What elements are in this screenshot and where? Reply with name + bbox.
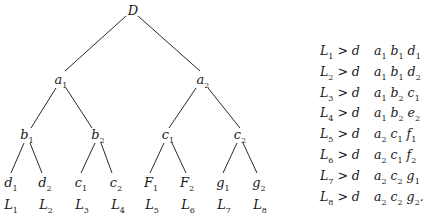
rule-index: 7	[328, 176, 333, 185]
p: g	[407, 168, 415, 183]
label-sub: 2	[48, 206, 53, 215]
rule-index: 5	[328, 135, 333, 144]
node-a1: a1	[55, 72, 68, 90]
label-sub: 5	[154, 206, 159, 215]
p: e	[408, 105, 415, 120]
rule-row: L6 > d a2 c1 f2	[320, 147, 424, 168]
p: d	[408, 64, 416, 79]
label-base: L	[217, 197, 226, 212]
s: 2	[399, 93, 404, 102]
rule-index: 4	[328, 114, 333, 123]
rule-index: 2	[328, 72, 333, 81]
s: 1	[415, 176, 420, 185]
rule-relation: > d	[337, 189, 359, 204]
label-base: L	[75, 197, 84, 212]
label-sub: 4	[120, 206, 125, 215]
node-a2: a2	[197, 72, 210, 90]
leaf-F1: F1	[144, 175, 158, 193]
node-b1: b1	[20, 127, 33, 145]
leaf-base: F	[144, 175, 153, 190]
leaf-d1: d1	[4, 175, 17, 193]
rule-index: 1	[328, 52, 333, 61]
p: c	[391, 189, 398, 204]
rule-path: a2 c1 f1	[370, 126, 416, 147]
label-base: L	[181, 197, 190, 212]
p: b	[391, 85, 399, 100]
rule-row: L4 > d a1 b2 e2	[320, 105, 424, 126]
rule-relation: > d	[337, 147, 359, 162]
s: 2	[399, 114, 404, 123]
rule-relation: > d	[337, 85, 359, 100]
leaf-d2: d2	[38, 175, 51, 193]
leaf-label-L6: L6	[181, 197, 195, 215]
rules-table: L1 > d a1 b1 d1 L2 > d a1 b1 d2 L3 > d a…	[320, 43, 424, 209]
node-sub: 1	[29, 136, 34, 145]
node-sub: 1	[62, 81, 67, 90]
p: c	[391, 147, 398, 162]
rule-path: a1 b1 d1	[370, 43, 421, 64]
label-base: L	[145, 197, 154, 212]
leaf-sub: 1	[82, 184, 87, 193]
p: g	[407, 189, 415, 204]
s: 1	[381, 72, 386, 81]
node-b2: b2	[91, 127, 104, 145]
rule-relation: > d	[337, 105, 359, 120]
root-node: D	[128, 3, 138, 18]
s: 1	[399, 72, 404, 81]
p: b	[391, 105, 399, 120]
s: 1	[381, 93, 386, 102]
rule-index: 8	[328, 197, 333, 206]
leaf-label-L8: L8	[253, 197, 267, 215]
rule-row: L8 > d a2 c2 g2.	[320, 189, 424, 210]
rule-lhs: L1 > d	[320, 43, 370, 64]
leaf-sub: 2	[117, 184, 122, 193]
p: d	[408, 43, 416, 58]
rule-path: a2 c2 g1	[370, 168, 420, 189]
s: 2	[381, 197, 386, 206]
s: 2	[398, 197, 403, 206]
p: c	[391, 168, 398, 183]
node-sub: 2	[204, 81, 209, 90]
leaf-base: F	[180, 175, 189, 190]
s: 1	[381, 114, 386, 123]
leaf-g2: g2	[252, 175, 265, 193]
leaf-c1: c1	[75, 175, 87, 193]
leaf-label-L7: L7	[217, 197, 231, 215]
rule-row: L1 > d a1 b1 d1	[320, 43, 424, 64]
s: 1	[398, 135, 403, 144]
rule-path: a2 c2 g2.	[370, 189, 424, 210]
s: 2	[411, 155, 416, 164]
rule-row: L2 > d a1 b1 d2	[320, 64, 424, 85]
s: 1	[398, 155, 403, 164]
leaf-label-L3: L3	[75, 197, 89, 215]
rule-lhs: L6 > d	[320, 147, 370, 168]
s: 2	[381, 176, 386, 185]
s: 1	[415, 93, 420, 102]
node-sub: 2	[241, 136, 246, 145]
leaf-sub: 1	[13, 184, 18, 193]
p: c	[408, 85, 415, 100]
s: 1	[411, 135, 416, 144]
node-sub: 2	[100, 136, 105, 145]
leaf-label-L5: L5	[145, 197, 159, 215]
label-sub: 6	[190, 206, 195, 215]
node-base: a	[55, 72, 63, 87]
rule-path: a1 b2 e2	[370, 105, 420, 126]
leaf-sub: 2	[261, 184, 266, 193]
leaf-c2: c2	[110, 175, 122, 193]
leaf-sub: 1	[153, 184, 158, 193]
label-base: L	[253, 197, 262, 212]
node-sub: 1	[169, 136, 174, 145]
p: b	[391, 64, 399, 79]
label-sub: 1	[13, 206, 18, 215]
label-sub: 3	[84, 206, 89, 215]
p: b	[391, 43, 399, 58]
label-sub: 8	[262, 206, 267, 215]
rule-row: L7 > d a2 c2 g1	[320, 168, 424, 189]
node-base: a	[197, 72, 205, 87]
s: 2	[398, 176, 403, 185]
rule-relation: > d	[337, 64, 359, 79]
rule-relation: > d	[337, 168, 359, 183]
rule-lhs: L7 > d	[320, 168, 370, 189]
rule-index: 6	[328, 155, 333, 164]
